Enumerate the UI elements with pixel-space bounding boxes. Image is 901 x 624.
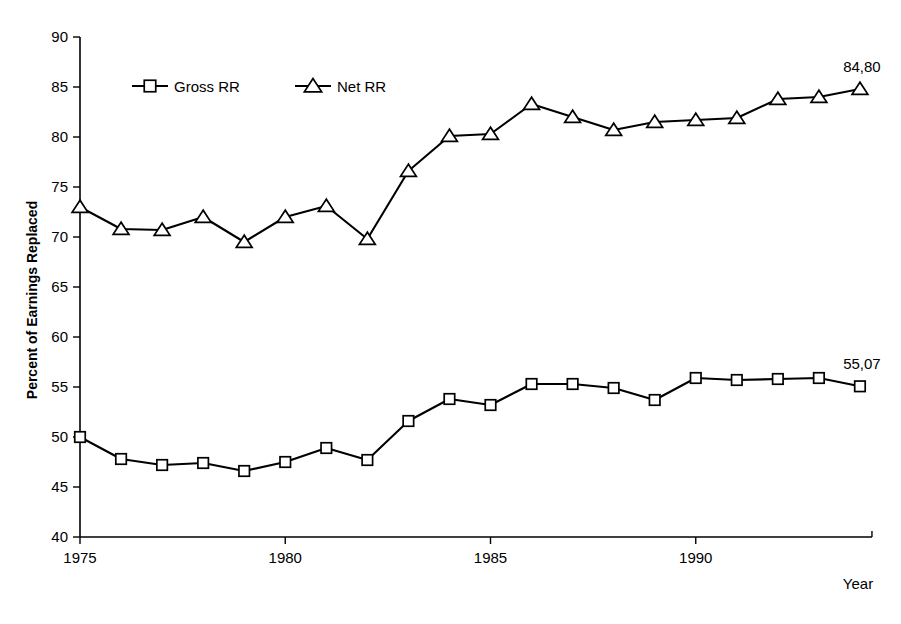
y-tick-label: 55 [51, 378, 68, 395]
x-tick-label: 1985 [474, 549, 507, 566]
data-point-marker-square [116, 454, 127, 465]
x-tick-label: 1980 [269, 549, 302, 566]
data-point-marker-square [526, 379, 537, 390]
data-point-label: 55,07 [843, 355, 881, 372]
legend-item-gross-rr[interactable]: Gross RR [132, 78, 240, 95]
data-point-marker-square [239, 466, 250, 477]
chart-canvas: 4045505560657075808590 1975198019851990 … [0, 0, 901, 624]
data-point-marker-square [732, 375, 743, 386]
replacement-rate-chart: 4045505560657075808590 1975198019851990 … [0, 0, 901, 624]
y-tick-label: 80 [51, 128, 68, 145]
x-axis-title: Year [843, 575, 873, 592]
y-tick-label: 50 [51, 428, 68, 445]
data-point-marker-square [649, 395, 660, 406]
data-point-marker-square [691, 373, 702, 384]
data-point-marker-square [855, 381, 866, 392]
series-polyline [80, 378, 860, 471]
y-tick-label: 40 [51, 528, 68, 545]
series-net-rr [72, 82, 868, 247]
series-gross-rr [75, 373, 865, 477]
x-axis: 1975198019851990 [63, 531, 872, 566]
legend-label: Gross RR [174, 78, 240, 95]
y-tick-label: 45 [51, 478, 68, 495]
series-layer [72, 82, 868, 476]
data-point-marker-square [75, 432, 86, 443]
data-point-marker-square [157, 460, 168, 471]
data-point-marker-square [608, 383, 619, 394]
y-tick-label: 65 [51, 278, 68, 295]
data-point-marker-square [485, 400, 496, 411]
legend-item-net-rr[interactable]: Net RR [295, 78, 386, 95]
legend-label: Net RR [337, 78, 386, 95]
data-point-marker-triangle [195, 210, 211, 222]
data-point-marker-triangle [318, 199, 334, 211]
data-point-marker-square [773, 374, 784, 385]
data-point-marker-square [567, 379, 578, 390]
y-tick-label: 85 [51, 78, 68, 95]
y-axis: 4045505560657075808590 [51, 28, 80, 545]
data-point-marker-square [280, 457, 291, 468]
x-tick-label: 1975 [63, 549, 96, 566]
data-point-marker-square [144, 80, 156, 92]
data-point-marker-square [403, 416, 414, 427]
data-point-marker-triangle [236, 235, 252, 247]
x-tick-label: 1990 [679, 549, 712, 566]
annotation-layer: 84,8055,07 [843, 58, 881, 372]
data-point-marker-square [198, 458, 209, 469]
y-axis-title: Percent of Earnings Replaced [24, 201, 40, 399]
data-point-marker-triangle [72, 200, 88, 212]
chart-legend: Gross RRNet RR [132, 78, 386, 95]
data-point-marker-square [362, 455, 373, 466]
data-point-marker-triangle [524, 97, 540, 109]
data-point-label: 84,80 [843, 58, 881, 75]
y-tick-label: 60 [51, 328, 68, 345]
data-point-marker-square [814, 373, 825, 384]
y-tick-label: 70 [51, 228, 68, 245]
data-point-marker-triangle [852, 82, 868, 94]
y-tick-label: 75 [51, 178, 68, 195]
data-point-marker-square [444, 394, 455, 405]
data-point-marker-square [321, 443, 332, 454]
y-tick-label: 90 [51, 28, 68, 45]
